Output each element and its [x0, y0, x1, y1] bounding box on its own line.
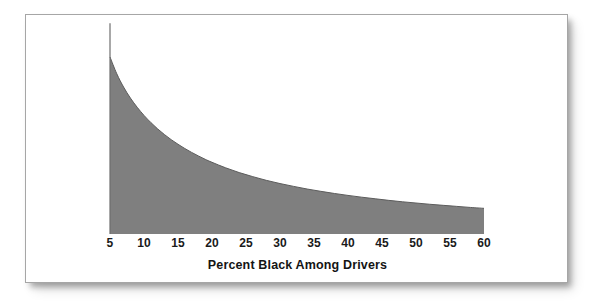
figure-frame: 51015202530354045505560 Percent Black Am…: [25, 14, 568, 283]
x-axis-tick-labels: 51015202530354045505560: [26, 236, 569, 254]
chart-plot-area: 51015202530354045505560 Percent Black Am…: [26, 15, 569, 284]
x-tick-label-60: 60: [464, 236, 504, 250]
x-axis-title: Percent Black Among Drivers: [26, 258, 569, 272]
density-area-fill: [110, 57, 484, 234]
